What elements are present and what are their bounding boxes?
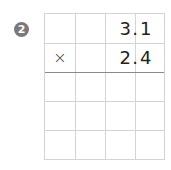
multiplier-fraction-digit: 4 — [135, 43, 165, 72]
product-line — [45, 72, 164, 73]
problem-number-badge: 2 — [14, 22, 29, 37]
multiply-operator: × — [45, 43, 75, 72]
grid-row-line — [45, 101, 164, 102]
grid-row-line — [45, 130, 164, 131]
grid-column-line — [75, 14, 76, 159]
multiplication-grid: 3 . 1 × 2 . 4 — [44, 13, 165, 160]
multiplicand-fraction-digit: 1 — [135, 14, 165, 43]
